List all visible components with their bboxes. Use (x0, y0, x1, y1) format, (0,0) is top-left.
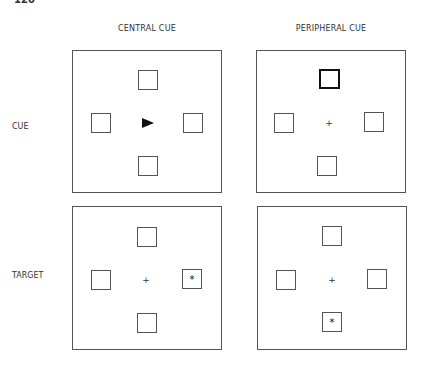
box-bottom (137, 313, 157, 333)
box-top (137, 227, 157, 247)
box-left (276, 270, 296, 290)
column-header-peripheral-cue: PERIPHERAL CUE (256, 24, 406, 33)
column-header-central-cue: CENTRAL CUE (72, 24, 222, 33)
fixation-cross-icon: + (324, 119, 334, 128)
box-bottom-target: * (322, 312, 342, 332)
fixation-cross-icon: + (327, 276, 337, 285)
box-top (322, 226, 342, 246)
panel-target-peripheral: * + (257, 206, 407, 350)
target-asterisk-icon: * (323, 313, 341, 331)
box-top (138, 70, 158, 90)
fixation-cross-icon: + (141, 276, 151, 285)
box-bottom (138, 156, 158, 176)
box-left (274, 113, 294, 133)
box-left (91, 113, 111, 133)
row-header-cue: CUE (12, 122, 29, 131)
box-right-target: * (182, 269, 202, 289)
box-left (91, 270, 111, 290)
row-header-target: TARGET (12, 271, 43, 280)
arrow-right-icon (142, 118, 154, 128)
panel-cue-peripheral: + (256, 50, 406, 193)
page-number: 120 (14, 0, 35, 5)
box-right (364, 112, 384, 132)
box-bottom (317, 156, 337, 176)
panel-cue-central (72, 50, 222, 193)
box-right (367, 269, 387, 289)
box-right (183, 113, 203, 133)
panel-target-central: * + (72, 206, 222, 350)
box-top-highlighted (319, 69, 340, 89)
target-asterisk-icon: * (183, 270, 201, 288)
